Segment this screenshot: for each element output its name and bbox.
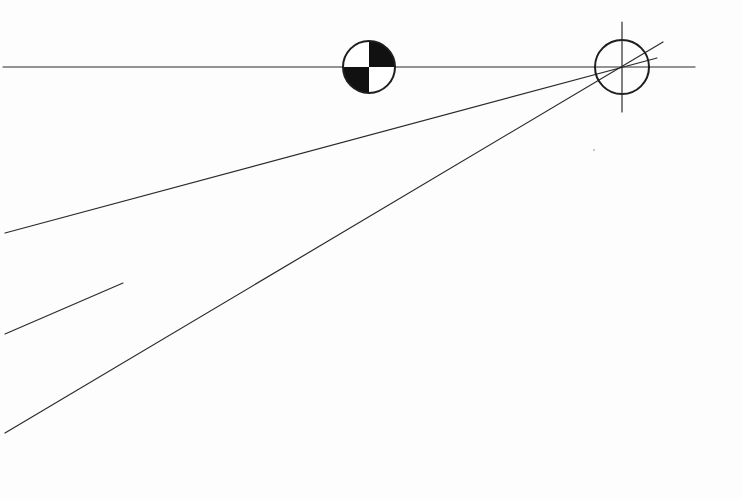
center-of-mass-icon [343,41,395,93]
upper-converging-line [5,58,657,233]
lower-converging-line [5,42,663,433]
stray-mark [593,149,595,151]
perspective-diagram [0,0,742,499]
partial-line [5,283,123,334]
